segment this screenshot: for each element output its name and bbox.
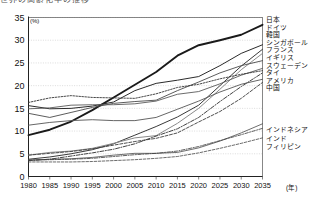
x-tick-label: 1995 (84, 181, 101, 190)
legend-item-ドイツ[interactable]: ドイツ (266, 24, 287, 31)
x-axis-unit-label: (年) (286, 183, 297, 192)
legend-item-イギリス[interactable]: イギリス (266, 54, 294, 61)
chart-canvas: 05101520253035 1980198519901995200020052… (0, 0, 309, 202)
x-tick-label: 2025 (212, 181, 229, 190)
aging-rate-line-chart: 世界の高齢化率の推移 05101520253035 19801985199019… (0, 0, 309, 202)
y-tick-label: 20 (14, 81, 24, 91)
x-tick-label: 1985 (41, 181, 58, 190)
series-line-7 (29, 73, 263, 161)
y-tick-label: 25 (14, 58, 24, 68)
series-lines (29, 25, 263, 162)
legend-item-インド[interactable]: インド (266, 135, 287, 142)
legend: 日本ドイツ韓国シンガポールフランスイギリススウェーデンタイアメリカ中国インドネシ… (266, 15, 308, 150)
legend-item-フィリピン[interactable]: フィリピン (266, 143, 301, 150)
legend-item-シンガポール[interactable]: シンガポール (266, 38, 308, 46)
x-axis-ticks: 1980198519901995200020052010201520202025… (20, 177, 271, 191)
y-tick-label: 10 (14, 126, 24, 136)
y-tick-label: 35 (14, 13, 24, 23)
y-tick-label: 5 (19, 149, 24, 159)
x-tick-label: 1990 (63, 181, 80, 190)
x-tick-label: 2015 (169, 181, 186, 190)
y-axis-unit-label: (%) (30, 18, 39, 24)
legend-item-アメリカ[interactable]: アメリカ (266, 77, 294, 84)
legend-item-フランス[interactable]: フランス (266, 46, 294, 53)
legend-item-タイ[interactable]: タイ (266, 68, 280, 76)
x-tick-label: 2005 (127, 181, 144, 190)
legend-item-インドネシア[interactable]: インドネシア (266, 126, 308, 133)
series-line-5 (29, 68, 263, 108)
x-tick-label: 1980 (20, 181, 37, 190)
y-tick-label: 30 (14, 35, 24, 45)
x-tick-label: 2000 (105, 181, 122, 190)
legend-item-中国[interactable]: 中国 (266, 83, 280, 92)
series-line-12 (29, 138, 263, 162)
series-line-2 (29, 49, 263, 159)
x-tick-label: 2035 (254, 181, 271, 190)
y-axis-ticks: 05101520253035 (14, 13, 24, 182)
x-tick-label: 2010 (148, 181, 165, 190)
x-tick-label: 2020 (190, 181, 207, 190)
y-tick-label: 15 (14, 104, 24, 114)
x-tick-label: 2030 (233, 181, 250, 190)
